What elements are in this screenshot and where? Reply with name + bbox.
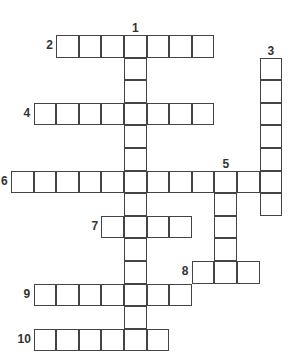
clue-number-5: 5 xyxy=(222,158,229,170)
crossword-cell[interactable] xyxy=(34,103,57,126)
crossword-cell[interactable] xyxy=(192,261,215,284)
clue-number-7: 7 xyxy=(91,220,98,232)
crossword-cell[interactable] xyxy=(79,103,102,126)
crossword-cell[interactable] xyxy=(124,35,147,58)
crossword-cell[interactable] xyxy=(192,103,215,126)
crossword-cell[interactable] xyxy=(169,216,192,239)
crossword-cell[interactable] xyxy=(79,35,102,58)
crossword-cell[interactable] xyxy=(147,171,170,194)
crossword-cell[interactable] xyxy=(237,171,260,194)
crossword-cell[interactable] xyxy=(124,171,147,194)
crossword-cell[interactable] xyxy=(124,216,147,239)
clue-number-10: 10 xyxy=(18,333,31,345)
crossword-cell[interactable] xyxy=(56,284,79,307)
crossword-cell[interactable] xyxy=(101,284,124,307)
crossword-cell[interactable] xyxy=(214,216,237,239)
crossword-cell[interactable] xyxy=(101,216,124,239)
crossword-cell[interactable] xyxy=(79,284,102,307)
crossword-cell[interactable] xyxy=(101,171,124,194)
clue-number-8: 8 xyxy=(182,265,189,277)
crossword-cell[interactable] xyxy=(56,171,79,194)
crossword-cell[interactable] xyxy=(124,58,147,81)
clue-number-4: 4 xyxy=(24,107,31,119)
crossword-cell[interactable] xyxy=(192,171,215,194)
crossword-cell[interactable] xyxy=(214,261,237,284)
crossword-cell[interactable] xyxy=(34,171,57,194)
crossword-cell[interactable] xyxy=(101,35,124,58)
crossword-cell[interactable] xyxy=(34,284,57,307)
crossword-cell[interactable] xyxy=(147,216,170,239)
crossword-cell[interactable] xyxy=(169,35,192,58)
crossword-cell[interactable] xyxy=(124,261,147,284)
crossword-cell[interactable] xyxy=(260,58,283,81)
crossword-cell[interactable] xyxy=(124,103,147,126)
crossword-cell[interactable] xyxy=(56,103,79,126)
crossword-cell[interactable] xyxy=(124,125,147,148)
crossword-cell[interactable] xyxy=(124,193,147,216)
crossword-cell[interactable] xyxy=(79,171,102,194)
crossword-cell[interactable] xyxy=(169,284,192,307)
crossword-cell[interactable] xyxy=(147,329,170,352)
crossword-cell[interactable] xyxy=(260,193,283,216)
crossword-cell[interactable] xyxy=(147,103,170,126)
crossword-cell[interactable] xyxy=(147,284,170,307)
crossword-cell[interactable] xyxy=(124,284,147,307)
crossword-cell[interactable] xyxy=(192,35,215,58)
crossword-cell[interactable] xyxy=(79,329,102,352)
crossword-cell[interactable] xyxy=(147,35,170,58)
crossword-cell[interactable] xyxy=(56,35,79,58)
crossword-cell[interactable] xyxy=(237,261,260,284)
clue-number-6: 6 xyxy=(1,175,8,187)
crossword-cell[interactable] xyxy=(214,238,237,261)
crossword-cell[interactable] xyxy=(214,171,237,194)
crossword-cell[interactable] xyxy=(11,171,34,194)
crossword-cell[interactable] xyxy=(260,125,283,148)
clue-number-9: 9 xyxy=(24,288,31,300)
crossword-cell[interactable] xyxy=(34,329,57,352)
crossword-cell[interactable] xyxy=(124,238,147,261)
crossword-cell[interactable] xyxy=(124,306,147,329)
crossword-cell[interactable] xyxy=(124,329,147,352)
crossword-cell[interactable] xyxy=(214,193,237,216)
crossword-cell[interactable] xyxy=(56,329,79,352)
crossword-cell[interactable] xyxy=(101,103,124,126)
crossword-cell[interactable] xyxy=(101,329,124,352)
crossword-cell[interactable] xyxy=(169,103,192,126)
clue-number-1: 1 xyxy=(132,22,139,34)
crossword-cell[interactable] xyxy=(260,80,283,103)
crossword-cell[interactable] xyxy=(124,80,147,103)
clue-number-2: 2 xyxy=(46,39,53,51)
clue-number-3: 3 xyxy=(268,45,275,57)
crossword-cell[interactable] xyxy=(124,148,147,171)
crossword-cell[interactable] xyxy=(260,148,283,171)
crossword-cell[interactable] xyxy=(260,103,283,126)
crossword-cell[interactable] xyxy=(260,171,283,194)
crossword-cell[interactable] xyxy=(169,171,192,194)
